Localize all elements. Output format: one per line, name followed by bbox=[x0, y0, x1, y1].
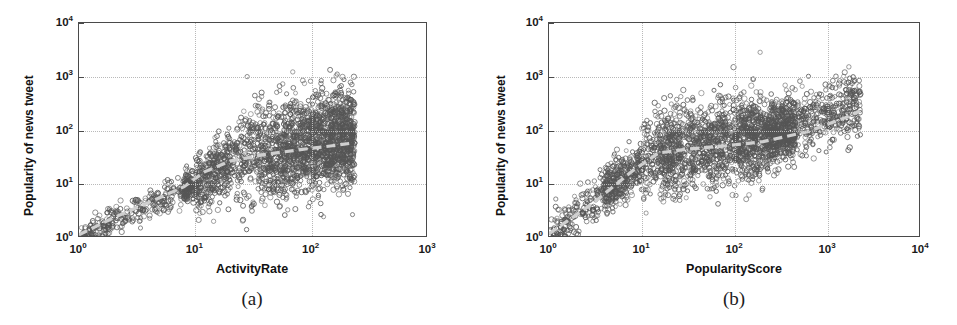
panel-a: 100101102103100101102103104 ActivityRate… bbox=[0, 0, 478, 325]
y-tick-label: 103 bbox=[514, 70, 543, 82]
x-tick-label: 103 bbox=[818, 243, 835, 255]
x-tick-label: 104 bbox=[911, 243, 928, 255]
x-tick-mark bbox=[642, 236, 643, 237]
y-tick-mark bbox=[549, 77, 554, 78]
x-axis-title-a: ActivityRate bbox=[216, 262, 288, 276]
x-tick-mark bbox=[79, 236, 80, 237]
y-tick-label: 101 bbox=[44, 177, 73, 189]
scatter-points-a bbox=[79, 23, 426, 236]
y-axis-title-b: Popularity of news tweet bbox=[494, 75, 508, 216]
y-tick-label: 102 bbox=[44, 124, 73, 136]
y-tick-label: 103 bbox=[44, 70, 73, 82]
y-tick-label: 100 bbox=[44, 231, 73, 243]
x-tick-label: 100 bbox=[69, 243, 86, 255]
x-tick-mark bbox=[195, 236, 196, 237]
y-axis-title-a: Popularity of news tweet bbox=[22, 75, 36, 216]
x-tick-label: 102 bbox=[302, 243, 319, 255]
y-tick-mark bbox=[79, 23, 84, 24]
y-tick-mark bbox=[549, 23, 554, 24]
x-tick-label: 102 bbox=[725, 243, 742, 255]
x-tick-mark bbox=[828, 236, 829, 237]
x-axis-title-b: PopularityScore bbox=[686, 262, 782, 276]
x-tick-label: 100 bbox=[539, 243, 556, 255]
y-tick-mark bbox=[79, 184, 84, 185]
plot-area-b bbox=[548, 22, 920, 237]
x-tick-mark bbox=[549, 236, 550, 237]
x-tick-mark bbox=[312, 236, 313, 237]
y-tick-mark bbox=[549, 184, 554, 185]
plot-area-a bbox=[78, 22, 427, 237]
figure-container: 100101102103100101102103104 ActivityRate… bbox=[0, 0, 957, 325]
x-tick-label: 103 bbox=[418, 243, 435, 255]
x-tick-label: 101 bbox=[632, 243, 649, 255]
caption-b: (b) bbox=[723, 288, 745, 310]
y-tick-label: 104 bbox=[514, 16, 543, 28]
y-tick-label: 100 bbox=[514, 231, 543, 243]
panel-b: 100101102103104100101102103104 Popularit… bbox=[478, 0, 956, 325]
y-tick-label: 101 bbox=[514, 177, 543, 189]
y-tick-label: 102 bbox=[514, 124, 543, 136]
y-tick-mark bbox=[549, 131, 554, 132]
y-tick-label: 104 bbox=[44, 16, 73, 28]
x-tick-label: 101 bbox=[186, 243, 203, 255]
y-tick-mark bbox=[79, 77, 84, 78]
y-tick-mark bbox=[79, 131, 84, 132]
x-tick-mark bbox=[735, 236, 736, 237]
caption-a: (a) bbox=[241, 288, 262, 310]
scatter-points-b bbox=[549, 23, 919, 236]
